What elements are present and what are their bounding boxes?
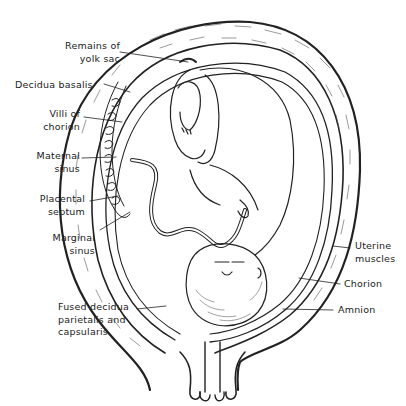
fetus-head bbox=[186, 244, 267, 326]
fetus-in-utero-diagram: Remains of yolk sac Decidua basalis Vill… bbox=[0, 0, 406, 406]
label-marginal-sinus: Marginal sinus bbox=[20, 232, 95, 257]
label-remains-of-yolk-sac: Remains of yolk sac bbox=[40, 40, 120, 65]
cervix bbox=[200, 342, 224, 401]
label-chorion: Chorion bbox=[344, 278, 404, 291]
placenta bbox=[100, 82, 130, 217]
amnion-layer bbox=[115, 73, 324, 334]
label-amnion: Amnion bbox=[338, 304, 398, 317]
label-maternal-sinus: Maternal sinus bbox=[10, 150, 80, 175]
label-placental-septum: Placental septum bbox=[10, 193, 85, 218]
label-uterine-muscles: Uterine muscles bbox=[355, 240, 405, 265]
label-villi-of-chorion: Villi of chorion bbox=[20, 108, 80, 133]
label-fused-decidua: Fused decidua parietalis and capsularis bbox=[58, 301, 148, 339]
label-decidua-basalis: Decidua basalis bbox=[15, 79, 115, 92]
fetus bbox=[170, 68, 293, 326]
